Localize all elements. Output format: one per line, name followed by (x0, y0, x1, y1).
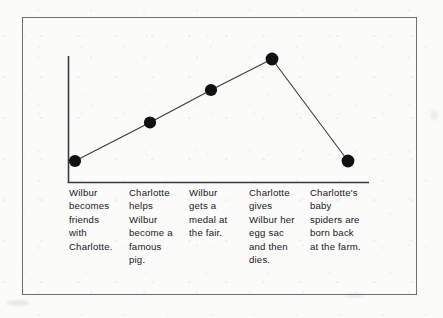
event-column-2: Charlotte helps Wilbur become a famous p… (129, 186, 187, 266)
page-canvas: Wilbur becomes friends with Charlotte. C… (0, 0, 443, 318)
scan-smudge (6, 300, 30, 306)
event-column-5: Charlotte's baby spiders are born back a… (310, 186, 372, 253)
event-column-3: Wilbur gets a medal at the fair. (189, 186, 247, 240)
event-column-1: Wilbur becomes friends with Charlotte. (69, 186, 127, 253)
diagram-border-frame (22, 17, 417, 295)
scan-smudge (430, 110, 438, 120)
event-column-4: Charlotte gives Wilbur her egg sac and t… (249, 186, 309, 266)
